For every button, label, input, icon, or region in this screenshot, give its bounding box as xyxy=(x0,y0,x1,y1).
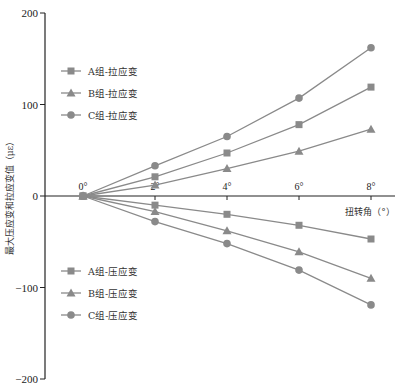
x-tick-label: 0° xyxy=(79,181,88,192)
circle-marker-icon xyxy=(367,301,375,309)
circle-marker-icon xyxy=(151,162,159,170)
strain-line-chart: 2001000−100−2000°2°4°6°8°扭转角（°）最大压应变和拉应变… xyxy=(0,0,402,392)
x-tick-label: 4° xyxy=(223,181,232,192)
circle-marker-icon xyxy=(67,111,75,119)
square-marker-icon xyxy=(224,149,231,156)
y-tick-label: 200 xyxy=(22,7,39,19)
legend-item: A组-拉应变 xyxy=(61,66,138,77)
circle-marker-icon xyxy=(295,94,303,102)
legend-item: A组-压应变 xyxy=(61,266,138,277)
square-marker-icon xyxy=(368,236,375,243)
triangle-marker-icon xyxy=(367,125,376,133)
square-marker-icon xyxy=(68,268,75,275)
square-marker-icon xyxy=(152,173,159,180)
circle-marker-icon xyxy=(295,266,303,274)
series-line xyxy=(83,87,371,196)
y-tick-label: 100 xyxy=(22,99,39,111)
circle-marker-icon xyxy=(79,192,87,200)
legend-item: B组-拉应变 xyxy=(61,88,138,99)
series-4 xyxy=(80,193,375,243)
x-tick-label: 8° xyxy=(367,181,376,192)
legend-label: C组-拉应变 xyxy=(88,110,138,121)
legend-label: B组-拉应变 xyxy=(88,88,138,99)
circle-marker-icon xyxy=(223,133,231,141)
square-marker-icon xyxy=(68,68,75,75)
y-tick-label: 0 xyxy=(33,190,39,202)
legend-label: A组-压应变 xyxy=(87,266,138,277)
square-marker-icon xyxy=(296,121,303,128)
x-axis-title: 扭转角（°） xyxy=(345,206,395,217)
square-marker-icon xyxy=(368,84,375,91)
axes: 2001000−100−2000°2°4°6°8°扭转角（°）最大压应变和拉应变… xyxy=(4,7,395,385)
circle-marker-icon xyxy=(367,44,375,52)
circle-marker-icon xyxy=(67,311,75,319)
square-marker-icon xyxy=(296,222,303,229)
legend-label: B组-压应变 xyxy=(88,288,138,299)
circle-marker-icon xyxy=(151,218,159,226)
legend-label: A组-拉应变 xyxy=(87,66,138,77)
square-marker-icon xyxy=(224,211,231,218)
legend-item: B组-压应变 xyxy=(61,288,138,299)
legend-label: C组-压应变 xyxy=(88,310,138,321)
circle-marker-icon xyxy=(223,240,231,248)
y-tick-label: −100 xyxy=(15,282,38,294)
legend-item: C组-拉应变 xyxy=(61,110,138,121)
y-tick-label: −200 xyxy=(15,373,38,385)
legend-item: C组-压应变 xyxy=(61,310,138,321)
y-axis-title: 最大压应变和拉应变值（με） xyxy=(4,137,15,256)
x-tick-label: 6° xyxy=(295,181,304,192)
